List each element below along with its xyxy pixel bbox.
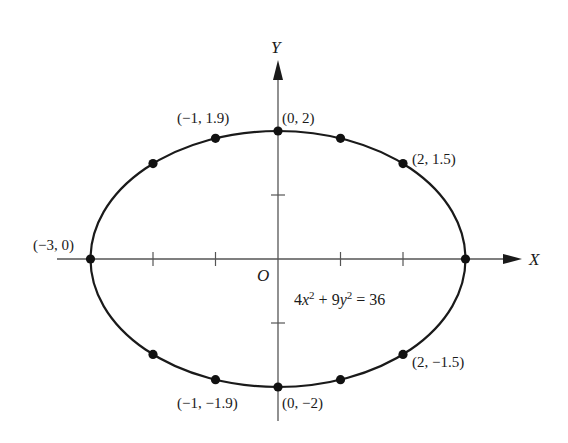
data-point [273,126,282,135]
y-axis-arrow-icon [273,60,283,80]
point-label-neg3-0: (−3, 0) [33,237,74,254]
x-axis-label: X [528,250,540,269]
data-point [211,375,220,384]
data-point [398,350,407,359]
ellipse-figure: X Y O (−3, 0) (−1, 1.9) (0, 2) (2, 1.5) … [0,0,568,443]
point-label-2-1.5: (2, 1.5) [412,151,456,168]
equation-label: 4x2 + 9y2 = 36 [294,289,385,309]
data-point [273,382,282,391]
point-label-neg1-1.9: (−1, 1.9) [177,110,229,127]
data-point [148,159,157,168]
point-label-2-neg1.5: (2, −1.5) [412,354,464,371]
data-point [398,159,407,168]
plot-area: X Y O (−3, 0) (−1, 1.9) (0, 2) (2, 1.5) … [0,0,568,443]
point-label-0-neg2: (0, −2) [282,395,323,412]
data-point [86,254,95,263]
origin-label: O [257,266,269,285]
data-point [461,254,470,263]
data-point [336,375,345,384]
point-label-0-2: (0, 2) [282,110,315,127]
point-label-neg1-neg1.9: (−1, −1.9) [177,395,238,412]
data-point [211,134,220,143]
data-point [336,134,345,143]
x-axis-arrow-icon [503,254,522,264]
data-point [148,350,157,359]
y-axis-label: Y [271,38,282,57]
